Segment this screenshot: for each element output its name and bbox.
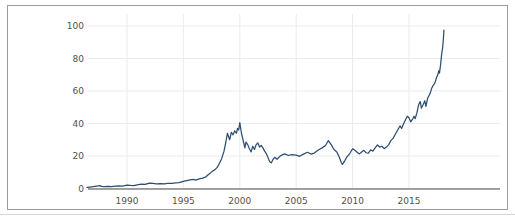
tick-labels: 020406080100199019952000200520102015: [67, 21, 421, 206]
x-tick-label: 1995: [172, 196, 195, 206]
price-line-chart: 020406080100199019952000200520102015: [0, 0, 515, 222]
x-tick-label: 2005: [285, 196, 308, 206]
x-tick-label: 1990: [116, 196, 139, 206]
figure-bottom-rule: [0, 214, 515, 215]
y-tick-label: 80: [73, 54, 85, 64]
y-tick-label: 20: [73, 151, 85, 161]
chart-figure: 020406080100199019952000200520102015: [0, 0, 515, 222]
y-tick-label: 40: [73, 119, 85, 129]
price-series-line: [87, 30, 444, 187]
gridlines: [88, 14, 500, 189]
y-tick-label: 60: [73, 86, 85, 96]
x-tick-label: 2015: [398, 196, 421, 206]
y-tick-label: 100: [67, 21, 84, 31]
y-tick-label: 0: [78, 184, 84, 194]
x-tick-label: 2000: [228, 196, 251, 206]
x-tick-label: 2010: [341, 196, 364, 206]
